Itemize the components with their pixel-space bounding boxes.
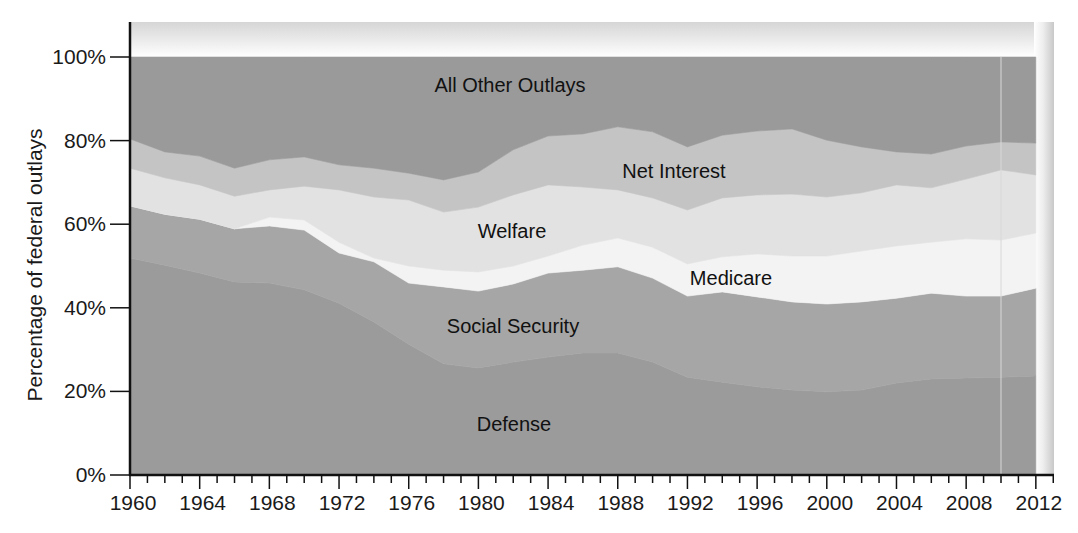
x-tick-label: 1992 [667, 491, 714, 514]
x-tick-label: 1968 [249, 491, 296, 514]
y-tick-label: 40% [64, 296, 106, 319]
x-tick-label: 1996 [737, 491, 784, 514]
label-net-interest: Net Interest [622, 160, 726, 182]
x-tick-label: 2004 [876, 491, 923, 514]
label-all-other-outlays: All Other Outlays [434, 74, 585, 96]
x-tick-label: 1976 [388, 491, 435, 514]
x-tick-label: 1984 [528, 491, 575, 514]
top-frame-gradient [130, 22, 1054, 57]
x-tick-label: 2012 [1015, 491, 1062, 514]
right-frame-gradient [1034, 22, 1054, 475]
x-tick-label: 2008 [946, 491, 993, 514]
x-tick-label: 1972 [319, 491, 366, 514]
y-tick-label: 20% [64, 379, 106, 402]
x-tick-label: 2000 [806, 491, 853, 514]
x-tick-label: 1964 [179, 491, 226, 514]
stacked-area-chart: 0%20%40%60%80%100% 196019641968197219761… [0, 0, 1078, 533]
label-social-security: Social Security [447, 315, 579, 337]
x-tick-label: 1988 [597, 491, 644, 514]
y-tick-label: 80% [64, 129, 106, 152]
area-bands [130, 57, 1036, 475]
label-medicare: Medicare [690, 267, 772, 289]
label-defense: Defense [477, 413, 552, 435]
x-tick-label: 1980 [458, 491, 505, 514]
y-axis-title: Percentage of federal outlays [23, 128, 46, 401]
y-tick-label: 60% [64, 212, 106, 235]
label-welfare: Welfare [478, 220, 547, 242]
y-tick-label: 100% [52, 45, 106, 68]
x-tick-label: 1960 [110, 491, 157, 514]
x-axis-ticks: 1960196419681972197619801984198819921996… [110, 475, 1063, 514]
y-tick-label: 0% [76, 463, 106, 486]
y-axis-ticks: 0%20%40%60%80%100% [52, 45, 130, 486]
